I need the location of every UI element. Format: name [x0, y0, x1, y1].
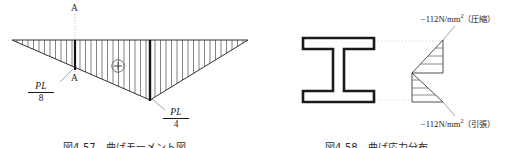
bending-stress-diagram-group: [303, 26, 455, 116]
hatch-fill-right: [155, 38, 243, 104]
stress-triangle-tension: [412, 73, 443, 102]
tensile-stress-note: （引張）: [463, 119, 495, 129]
moment-label-pl8-numerator: PL: [28, 82, 54, 92]
figure-caption-right: 図4-58 曲げ応力分布: [325, 139, 428, 148]
moment-label-pl4-denominator: 4: [163, 120, 189, 130]
positive-sign-icon: [112, 60, 124, 72]
tensile-stress-label: −112N/mm2（引張）: [421, 118, 495, 128]
stress-triangle-compression: [412, 40, 443, 73]
tensile-stress-value: −112N/mm: [421, 119, 460, 129]
figure-caption-left: 図4-57 曲げモーメント図: [63, 139, 186, 148]
compressive-stress-note: （圧縮）: [463, 14, 495, 24]
section-letter-bottom: A: [71, 74, 78, 84]
leader-line-tension: [443, 102, 455, 116]
moment-label-pl8-denominator: 8: [28, 94, 54, 104]
compressive-stress-label: −112N/mm2（圧縮）: [421, 13, 495, 23]
moment-label-pl4: PL 4: [163, 108, 189, 130]
leader-line-compression: [443, 26, 455, 40]
section-letter-top: A: [71, 4, 78, 14]
i-beam-cross-section: [303, 38, 374, 102]
compressive-stress-value: −112N/mm: [421, 14, 460, 24]
moment-label-pl4-numerator: PL: [163, 108, 189, 118]
moment-label-pl8: PL 8: [28, 82, 54, 104]
figure-pair-root: A A PL 8 PL 4 −112N/mm2（圧縮） −112N/mm2（引張…: [0, 0, 518, 148]
